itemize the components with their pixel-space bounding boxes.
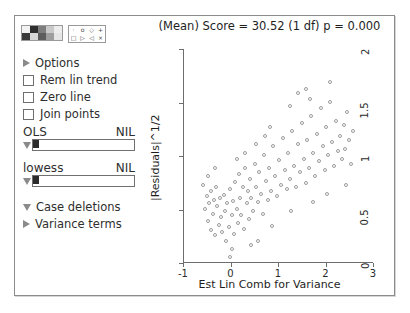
slider-ols-track[interactable] bbox=[32, 139, 135, 151]
y-tick bbox=[179, 103, 183, 104]
checkbox-icon[interactable] bbox=[23, 75, 34, 86]
data-point bbox=[242, 227, 246, 231]
symbol-palette[interactable]: ·o◇+□▷◁× bbox=[68, 25, 106, 43]
checkbox-icon[interactable] bbox=[23, 109, 34, 120]
slider-lowess-value: NIL bbox=[116, 162, 135, 175]
data-point bbox=[283, 168, 287, 172]
x-tick-label: -1 bbox=[173, 268, 193, 279]
data-point bbox=[218, 196, 222, 200]
checkbox-zero-line[interactable]: Zero line bbox=[23, 90, 91, 104]
data-point bbox=[344, 183, 348, 187]
color-swatch[interactable] bbox=[22, 26, 30, 33]
color-swatch[interactable] bbox=[38, 33, 46, 40]
slider-ols[interactable]: OLS NIL bbox=[23, 126, 135, 151]
data-point bbox=[254, 142, 258, 146]
color-swatch[interactable] bbox=[30, 33, 38, 40]
color-swatch[interactable] bbox=[22, 33, 30, 40]
slider-pointer-icon bbox=[23, 178, 31, 185]
x-tick bbox=[373, 263, 374, 267]
color-palette[interactable] bbox=[21, 25, 63, 41]
symbol-swatch[interactable]: o bbox=[78, 26, 87, 34]
data-point bbox=[298, 170, 302, 174]
slider-lowess[interactable]: lowess NIL bbox=[23, 162, 135, 187]
data-point bbox=[285, 187, 289, 191]
data-point bbox=[302, 157, 306, 161]
x-tick-label: 1 bbox=[268, 268, 288, 279]
menu-options[interactable]: Options bbox=[23, 56, 79, 70]
data-point bbox=[347, 138, 351, 142]
symbol-swatch[interactable]: ▷ bbox=[78, 34, 87, 42]
data-point bbox=[249, 196, 253, 200]
data-point bbox=[225, 201, 229, 205]
menu-case-deletions-label: Case deletions bbox=[36, 200, 120, 214]
slider-lowess-thumb[interactable] bbox=[33, 176, 39, 184]
data-point bbox=[256, 200, 260, 204]
menu-case-deletions[interactable]: Case deletions bbox=[23, 200, 120, 214]
menu-variance-terms-label: Variance terms bbox=[35, 217, 122, 231]
data-point bbox=[351, 129, 355, 133]
data-point bbox=[243, 151, 247, 155]
data-point bbox=[223, 209, 227, 213]
x-tick bbox=[183, 263, 184, 267]
data-point bbox=[237, 172, 241, 176]
data-point bbox=[212, 198, 216, 202]
x-axis-label: Est Lin Comb for Variance bbox=[143, 278, 396, 291]
data-point bbox=[319, 106, 323, 110]
data-point bbox=[342, 123, 346, 127]
data-point bbox=[243, 166, 247, 170]
symbol-swatch[interactable]: ◇ bbox=[87, 26, 96, 34]
data-point bbox=[317, 159, 321, 163]
checkbox-label: Rem lin trend bbox=[40, 73, 117, 87]
menu-variance-terms[interactable]: Variance terms bbox=[23, 217, 122, 231]
data-point bbox=[308, 97, 312, 101]
data-point bbox=[288, 177, 292, 181]
data-point bbox=[300, 121, 304, 125]
data-point bbox=[213, 166, 217, 170]
checkbox-rem-lin-trend[interactable]: Rem lin trend bbox=[23, 73, 117, 87]
data-point bbox=[263, 134, 267, 138]
color-swatch[interactable] bbox=[30, 26, 38, 33]
data-point bbox=[315, 132, 319, 136]
color-swatch[interactable] bbox=[46, 33, 54, 40]
y-tick bbox=[179, 210, 183, 211]
data-point bbox=[296, 91, 300, 95]
color-swatch[interactable] bbox=[54, 33, 62, 40]
palette-row: ·o◇+□▷◁× bbox=[21, 25, 106, 43]
chevron-right-icon bbox=[23, 59, 30, 67]
data-point bbox=[235, 207, 239, 211]
data-point bbox=[277, 158, 281, 162]
symbol-swatch[interactable]: · bbox=[69, 26, 78, 34]
slider-lowess-track[interactable] bbox=[32, 175, 135, 187]
symbol-swatch[interactable]: × bbox=[96, 34, 105, 42]
color-swatch[interactable] bbox=[54, 26, 62, 33]
symbol-swatch[interactable]: □ bbox=[69, 34, 78, 42]
slider-ols-thumb[interactable] bbox=[33, 140, 39, 148]
symbol-swatch[interactable]: + bbox=[96, 26, 105, 34]
data-point bbox=[270, 224, 274, 228]
data-point bbox=[246, 189, 250, 193]
data-point bbox=[309, 114, 313, 118]
data-point bbox=[228, 255, 232, 259]
checkbox-label: Join points bbox=[40, 107, 100, 121]
slider-ols-label: OLS bbox=[23, 126, 47, 139]
checkbox-join-points[interactable]: Join points bbox=[23, 107, 100, 121]
color-swatch[interactable] bbox=[38, 26, 46, 33]
data-point bbox=[251, 209, 255, 213]
scatter-plot: (Mean) Score = 30.52 (1 df) p = 0.000 |R… bbox=[143, 16, 396, 295]
data-point bbox=[340, 157, 344, 161]
symbol-swatch[interactable]: ◁ bbox=[87, 34, 96, 42]
data-point bbox=[266, 198, 270, 202]
data-point bbox=[231, 199, 235, 203]
data-point bbox=[245, 201, 249, 205]
color-swatch[interactable] bbox=[46, 26, 54, 33]
data-point bbox=[230, 247, 234, 251]
data-point bbox=[268, 125, 272, 129]
data-point bbox=[228, 187, 232, 191]
data-point bbox=[209, 228, 213, 232]
y-tick-label: 2 bbox=[360, 49, 371, 55]
slider-pointer-icon bbox=[23, 142, 31, 149]
data-point bbox=[323, 168, 327, 172]
checkbox-icon[interactable] bbox=[23, 92, 34, 103]
data-point bbox=[307, 166, 311, 170]
data-point bbox=[311, 151, 315, 155]
